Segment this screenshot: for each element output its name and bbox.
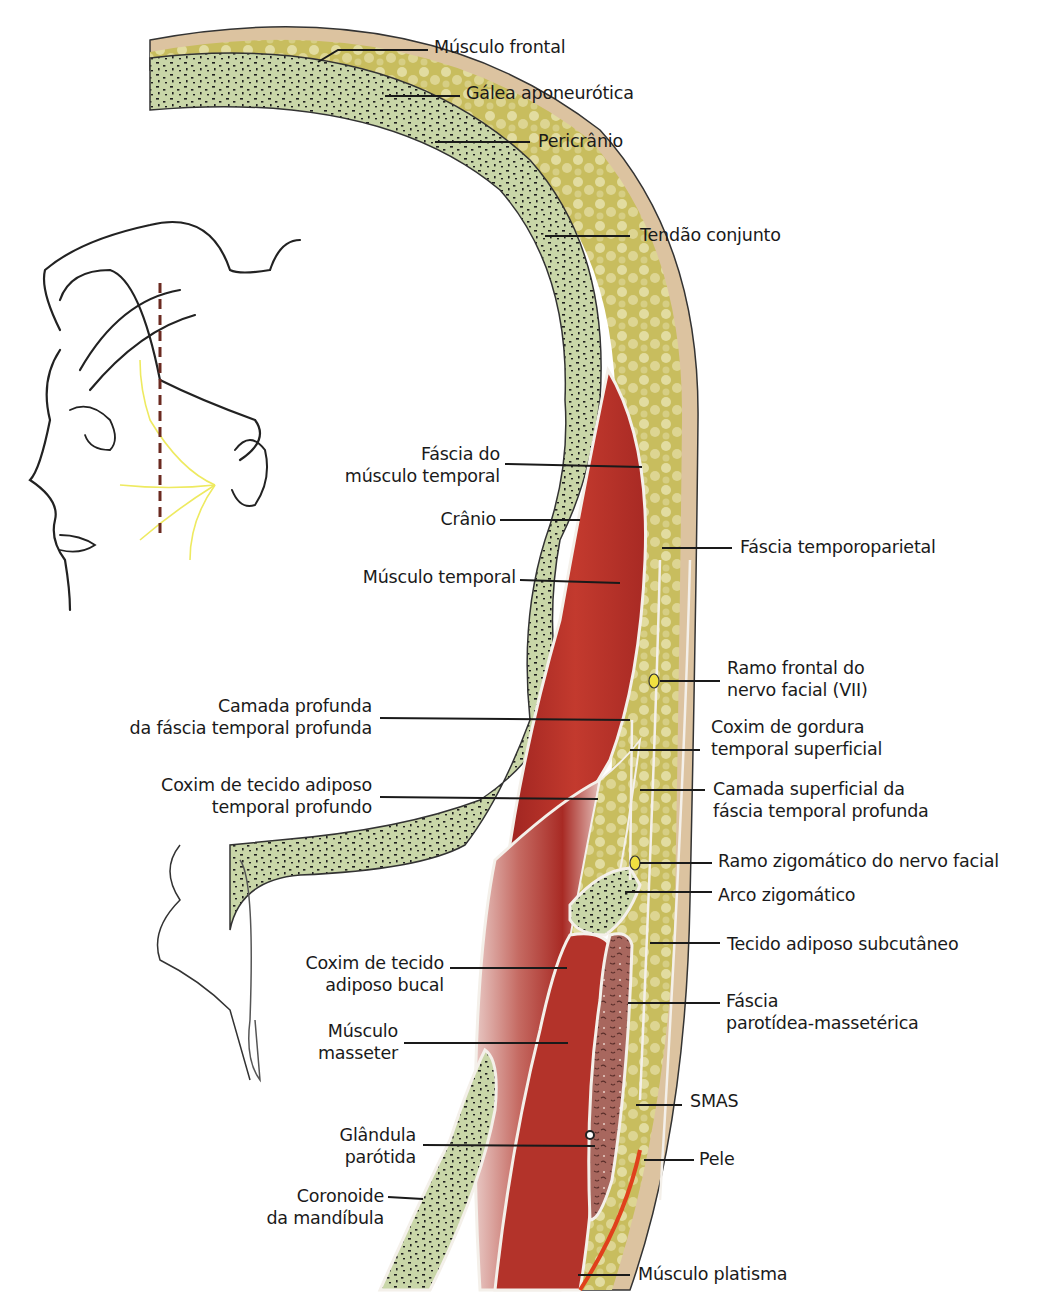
label-galea-aponeurotica: Gálea aponeurótica	[466, 82, 634, 104]
label-fascia-parotidea-masseterica: Fáscia parotídea-massetérica	[726, 990, 919, 1034]
parotid-duct	[586, 1131, 594, 1139]
label-musculo-platisma: Músculo platisma	[638, 1263, 787, 1285]
label-camada-superficial: Camada superficial da fáscia temporal pr…	[713, 778, 929, 822]
label-glandula-parotida: Glândula parótida	[340, 1124, 416, 1168]
frontal-nerve-branch	[649, 674, 659, 688]
label-cranio: Crânio	[440, 508, 496, 530]
zygomatic-nerve-branch	[630, 856, 640, 870]
label-tendao-conjunto: Tendão conjunto	[640, 224, 781, 246]
inset-facial-nerve	[120, 360, 215, 560]
label-coxim-gordura-temporal-superficial: Coxim de gordura temporal superficial	[711, 716, 882, 760]
label-arco-zigomatico: Arco zigomático	[718, 884, 855, 906]
label-coxim-adiposo-temporal-profundo: Coxim de tecido adiposo temporal profund…	[161, 774, 372, 818]
label-fascia-temporoparietal: Fáscia temporoparietal	[740, 536, 936, 558]
label-musculo-masseter: Músculo masseter	[318, 1020, 398, 1064]
inset-head-sketch	[30, 222, 300, 610]
label-pele: Pele	[699, 1148, 735, 1170]
label-musculo-temporal: Músculo temporal	[363, 566, 516, 588]
label-coronoide-mandibula: Coronoide da mandíbula	[266, 1185, 384, 1229]
label-ramo-frontal-nervo-facial: Ramo frontal do nervo facial (VII)	[727, 657, 868, 701]
label-coxim-tecido-adiposo-bucal: Coxim de tecido adiposo bucal	[305, 952, 444, 996]
label-camada-profunda: Camada profunda da fáscia temporal profu…	[130, 695, 372, 739]
label-smas: SMAS	[690, 1090, 739, 1112]
label-pericranio: Pericrânio	[538, 130, 623, 152]
label-musculo-frontal: Músculo frontal	[434, 36, 565, 58]
anatomy-illustration	[0, 0, 1044, 1308]
label-fascia-musculo-temporal: Fáscia do músculo temporal	[345, 443, 500, 487]
label-tecido-adiposo-subcutaneo: Tecido adiposo subcutâneo	[727, 933, 958, 955]
label-ramo-zigomatico: Ramo zigomático do nervo facial	[718, 850, 999, 872]
